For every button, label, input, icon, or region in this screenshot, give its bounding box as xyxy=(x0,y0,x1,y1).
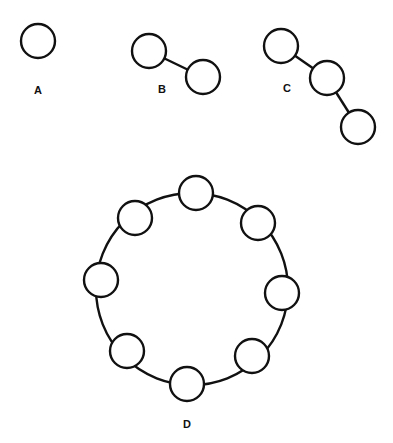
graph-b-node-1 xyxy=(132,34,166,68)
graph-d-node-3 xyxy=(265,276,299,310)
graph-d-node-8 xyxy=(118,201,152,235)
graph-d-node-5 xyxy=(170,367,204,401)
graph-d-node-6 xyxy=(110,334,144,368)
graph-d-node-2 xyxy=(241,206,275,240)
graph-d-node-4 xyxy=(235,339,269,373)
graph-d: D xyxy=(84,176,299,430)
graph-diagram: A B C D xyxy=(0,0,393,443)
graph-c-label: C xyxy=(283,82,291,94)
graph-b: B xyxy=(132,34,220,95)
graph-d-node-1 xyxy=(179,176,213,210)
graph-b-node-2 xyxy=(186,60,220,94)
graph-c-node-2 xyxy=(310,61,344,95)
graph-c-node-3 xyxy=(341,110,375,144)
graph-a-node-1 xyxy=(21,24,55,58)
graph-d-nodes xyxy=(84,176,299,401)
graph-d-label: D xyxy=(183,418,191,430)
graph-c: C xyxy=(264,29,375,144)
graph-a-label: A xyxy=(34,84,42,96)
graph-a: A xyxy=(21,24,55,96)
graph-c-node-1 xyxy=(264,29,298,63)
graph-b-label: B xyxy=(158,83,166,95)
graph-d-node-7 xyxy=(84,263,118,297)
